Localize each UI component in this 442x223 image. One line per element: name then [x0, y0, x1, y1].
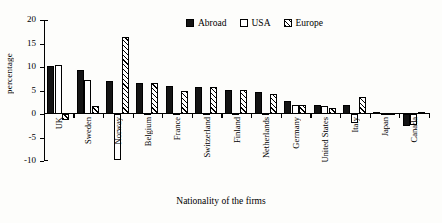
- bar-europe: [210, 87, 217, 114]
- y-axis-tick-label: 10: [14, 62, 36, 71]
- bar-abroad: [47, 66, 54, 114]
- bar-europe: [418, 112, 425, 114]
- x-axis-category-label: Germany: [292, 117, 301, 149]
- bar-europe: [181, 91, 188, 114]
- bar-usa: [262, 113, 269, 115]
- x-axis-category-label: Switzerland: [203, 117, 212, 158]
- bar-abroad: [225, 90, 232, 114]
- x-axis-category-label: Canada: [410, 117, 419, 143]
- bar-abroad: [77, 70, 84, 114]
- y-axis-tick-label: 5: [14, 86, 36, 95]
- legend-item: Europe: [284, 18, 323, 28]
- bar-group: [371, 20, 401, 161]
- x-axis-category-label: Italy: [351, 117, 360, 133]
- x-axis-title: Nationality of the firms: [0, 196, 442, 206]
- hatched-swatch: [284, 19, 292, 27]
- bar-europe: [151, 83, 158, 114]
- white-swatch: [240, 19, 248, 27]
- bar-chart: percentage 20151050-5-10 AbroadUSAEurope…: [0, 0, 442, 223]
- x-axis-category-label: Sweden: [84, 117, 93, 144]
- solid-black-swatch: [186, 19, 194, 27]
- bar-usa: [55, 65, 62, 114]
- legend-label: Europe: [296, 18, 323, 28]
- bar-europe: [299, 105, 306, 114]
- bar-abroad: [136, 83, 143, 114]
- x-axis-category-label: UK: [55, 117, 64, 129]
- bar-abroad: [314, 105, 321, 114]
- legend-item: Abroad: [186, 18, 227, 28]
- bar-usa: [144, 113, 151, 115]
- bar-usa: [203, 113, 210, 115]
- bar-europe: [359, 97, 366, 114]
- bar-abroad: [106, 81, 113, 114]
- bar-abroad: [343, 105, 350, 114]
- bar-abroad: [255, 92, 262, 114]
- bar-usa: [381, 113, 388, 115]
- bar-europe: [240, 90, 247, 114]
- y-axis-tick-label: 0: [14, 109, 36, 118]
- bar-group: [45, 20, 75, 161]
- bar-group: [341, 20, 371, 161]
- bar-abroad: [195, 87, 202, 114]
- bar-abroad: [373, 112, 380, 114]
- y-axis-tick-label: 15: [14, 39, 36, 48]
- legend-item: USA: [240, 18, 271, 28]
- x-axis-tick-mark: [429, 113, 430, 118]
- x-axis-category-label: Norway: [114, 117, 123, 144]
- x-axis-category-label: United States: [321, 117, 330, 163]
- legend-label: Abroad: [198, 18, 227, 28]
- x-axis-category-label: Netherlands: [262, 117, 271, 158]
- bar-usa: [321, 106, 328, 114]
- x-axis-category-label: Belgium: [144, 117, 153, 146]
- x-axis-category-label: France: [173, 117, 182, 140]
- bar-usa: [173, 113, 180, 115]
- chart-legend: AbroadUSAEurope: [186, 16, 323, 30]
- legend-label: USA: [252, 18, 271, 28]
- bar-usa: [292, 105, 299, 114]
- bar-usa: [232, 113, 239, 115]
- y-axis-tick-label: -5: [14, 133, 36, 142]
- bar-europe: [122, 37, 129, 114]
- y-axis-tick-label: -10: [14, 156, 36, 165]
- bar-abroad: [284, 101, 291, 114]
- bar-usa: [84, 80, 91, 114]
- bar-europe: [270, 94, 277, 114]
- bar-europe: [92, 106, 99, 114]
- bar-abroad: [166, 86, 173, 114]
- bar-europe: [388, 113, 395, 115]
- x-axis-category-label: Finland: [233, 117, 242, 143]
- y-axis-tick-label: 20: [14, 15, 36, 24]
- bar-europe: [329, 108, 336, 114]
- x-axis-category-label: Japan: [381, 117, 390, 136]
